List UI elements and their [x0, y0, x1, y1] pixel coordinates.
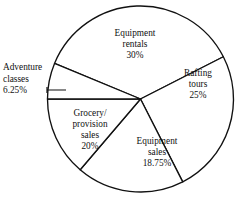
pie-label-grocery-line2: provision: [60, 119, 120, 130]
pie-label-equipment-rentals-line2: rentals: [99, 39, 171, 50]
pie-label-adventure-classes: Adventure classes 6.25%: [3, 62, 65, 97]
pie-label-equipment-sales-line1: Equipment: [124, 136, 190, 147]
pie-label-equipment-rentals: Equipment rentals 30%: [99, 28, 171, 61]
pie-label-rafting-tours: Rafting tours 25%: [172, 68, 224, 101]
pie-label-equipment-sales-line2: sales: [124, 147, 190, 158]
pie-label-grocery-line1: Grocery/: [60, 108, 120, 119]
pie-value-equipment-rentals: 30%: [99, 50, 171, 61]
pie-label-adventure-classes-line1: Adventure: [3, 62, 65, 74]
pie-chart-figure: Equipment rentals 30% Rafting tours 25% …: [0, 0, 239, 203]
pie-label-equipment-rentals-line1: Equipment: [99, 28, 171, 39]
pie-value-grocery-provision-sales: 20%: [60, 141, 120, 152]
pie-value-equipment-sales: 18.75%: [124, 158, 190, 169]
pie-label-rafting-tours-line1: Rafting: [172, 68, 224, 79]
pie-value-rafting-tours: 25%: [172, 90, 224, 101]
pie-label-grocery-line3: sales: [60, 130, 120, 141]
pie-value-adventure-classes: 6.25%: [3, 85, 65, 97]
pie-label-adventure-classes-line2: classes: [3, 74, 65, 86]
pie-label-grocery-provision-sales: Grocery/ provision sales 20%: [60, 108, 120, 152]
pie-label-equipment-sales: Equipment sales 18.75%: [124, 136, 190, 169]
pie-label-rafting-tours-line2: tours: [172, 79, 224, 90]
